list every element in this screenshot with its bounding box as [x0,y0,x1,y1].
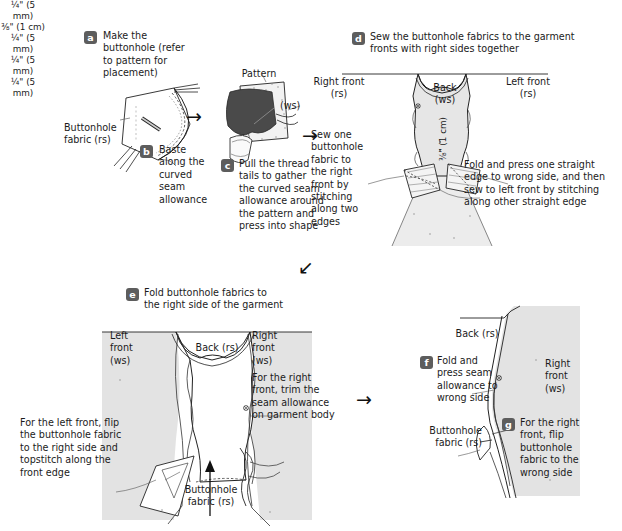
step-badge-a: a [84,31,97,44]
label-right-front-ws-e: Right front (ws) [252,330,300,367]
measurement-5mm-e3: ¼" (5 mm) [0,77,46,99]
measurement-1cm-bottom: ⅜" (1 cm) [0,22,46,33]
label-left-front-rs-d: Left front (rs) [492,76,564,101]
label-pattern: Pattern [229,68,289,80]
caption-fold-and-press-one: Fold and press one straight edge to wron… [464,159,622,209]
step-badge-g: g [502,418,515,431]
label-back-rs-e: Back (rs) [186,342,248,354]
measurement-5mm-e1: ¼" (5 mm) [0,33,46,55]
label-ws-1: (ws) [280,100,310,112]
caption-flip-left-front: For the left front, flip the buttonhole … [20,417,136,479]
figure-step-c [222,80,314,166]
label-buttonhole-fabric-rs-f: Buttonhole fabric (rs) [400,425,482,450]
step-d-text: Sew the buttonhole fabrics to the garmen… [370,31,620,56]
step-badge-e: e [126,288,139,301]
step-a-text: Make the buttonhole (refer to pattern fo… [103,30,215,80]
step-badge-c: c [221,159,234,172]
step-g-text: For the right front, flip buttonhole fab… [520,417,610,479]
label-back-rs-f: Back (rs) [444,328,510,340]
arrow-d-to-e: ↙ [298,258,314,277]
measurement-5mm-step-c: ¼" (5 mm) [0,0,46,22]
arrow-a-to-c: → [186,107,202,126]
step-b-text: Baste along the curved seam allowance [159,144,221,206]
label-buttonhole-fabric-rs-1: Buttonhole fabric (rs) [64,122,142,147]
step-e-text: Fold buttonhole fabrics to the right sid… [144,287,340,312]
step-badge-f: f [420,356,433,369]
arrow-e-to-f: → [356,390,372,409]
step-badge-b: b [140,145,153,158]
caption-trim-seam-allowance: For the right front, trim the seam allow… [252,372,356,422]
label-left-front-ws-e: Left front (ws) [110,330,156,367]
step-badge-d: d [352,32,365,45]
label-buttonhole-fabric-rs-e: Buttonhole fabric (rs) [168,484,254,509]
measurement-5mm-e2: ¼" (5 mm) [0,55,46,77]
label-back-ws-d: Back (ws) [415,82,475,107]
instruction-sheet: a Make the buttonhole (refer to pattern … [0,0,622,531]
measurement-1cm-vertical: ⅜" (1 cm) [438,116,448,162]
step-f-text: Fold and press seam allowance to wrong s… [437,355,501,405]
caption-sew-one-buttonhole: Sew one buttonhole fabric to the right f… [311,129,371,228]
label-right-front-ws-f: Right front (ws) [545,358,591,395]
label-right-front-rs-d: Right front (rs) [303,76,375,101]
